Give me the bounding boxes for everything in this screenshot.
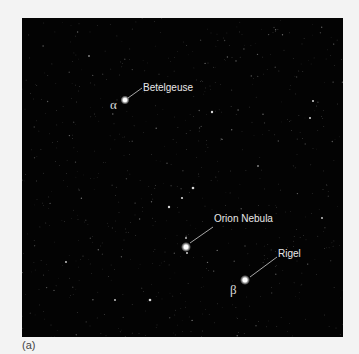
- betelgeuse-leader-line: [128, 88, 142, 98]
- bright-background-stars: [65, 55, 323, 301]
- star-field: [22, 18, 343, 337]
- star-field-image: Betelgeuse α Orion Nebula Rigel β: [22, 18, 343, 337]
- figure-caption: (a): [22, 340, 35, 351]
- beta-symbol: β: [230, 283, 237, 296]
- betelgeuse-star: [121, 96, 130, 105]
- alpha-symbol: α: [110, 98, 117, 111]
- orion-nebula-leader-line: [190, 227, 213, 243]
- rigel-label: Rigel: [278, 249, 301, 259]
- rigel-leader-line: [250, 257, 277, 277]
- faint-stars: [22, 18, 343, 337]
- orion-nebula-label: Orion Nebula: [214, 214, 273, 224]
- betelgeuse-label: Betelgeuse: [143, 83, 193, 93]
- orion-nebula-star: [181, 237, 191, 254]
- rigel-star: [240, 275, 250, 285]
